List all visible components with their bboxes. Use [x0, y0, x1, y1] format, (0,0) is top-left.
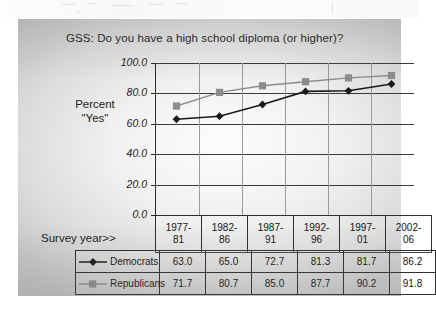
category-header-line: 96 [295, 234, 338, 246]
legend-marker-square-icon [78, 278, 108, 290]
data-point-democrats-1997-01 [345, 87, 353, 95]
category-header-line: 1997- [341, 222, 384, 234]
data-point-democrats-1987-91 [259, 101, 267, 109]
category-header-line: 2002- [387, 222, 430, 234]
legend-entry-republicans: Republicans [76, 273, 160, 295]
y-tick-label: 80.0 [91, 86, 147, 98]
data-cell-democrats-1997-01: 81.7 [344, 251, 390, 273]
category-header-line: 91 [249, 234, 292, 246]
category-header-cell: 1977-81 [156, 216, 202, 253]
y-tick-label: 60.0 [91, 117, 147, 129]
data-table: Democrats63.065.072.781.381.786.2Republi… [75, 250, 436, 295]
data-cell-republicans-1997-01: 90.2 [344, 273, 390, 295]
scan-noise-strip [0, 0, 419, 18]
table-row: Republicans71.780.785.087.790.291.8 [76, 273, 436, 295]
category-header-line: 1992- [295, 222, 338, 234]
y-tick-label: 0.0 [91, 208, 147, 220]
series-line-democrats [177, 84, 392, 119]
y-tick-label: 20.0 [91, 178, 147, 190]
legend-entry-democrats: Democrats [76, 251, 160, 273]
data-cell-democrats-1977-81: 63.0 [160, 251, 206, 273]
category-header-line: 1987- [249, 222, 292, 234]
category-header-cell: 1987-91 [248, 216, 294, 253]
data-point-democrats-2002-06 [388, 80, 396, 88]
slide-panel: GSS: Do you have a high school diploma (… [18, 19, 401, 296]
data-cell-democrats-2002-06: 86.2 [390, 251, 436, 273]
scan-mark [332, 2, 333, 13]
data-cell-republicans-1992-96: 87.7 [298, 273, 344, 295]
y-tick-label: 40.0 [91, 147, 147, 159]
legend-label: Democrats [110, 256, 158, 267]
series-layer [155, 63, 413, 215]
y-tick-label: 100.0 [91, 56, 147, 68]
data-point-republicans-1997-01 [345, 74, 352, 81]
category-header-line: 1982- [203, 222, 246, 234]
data-point-republicans-1987-91 [259, 82, 266, 89]
category-header-row: 1977-811982-861987-911992-961997-012002-… [156, 216, 432, 253]
data-cell-democrats-1987-91: 72.7 [252, 251, 298, 273]
x-axis-title: Survey year>> [41, 232, 116, 244]
data-point-democrats-1977-81 [173, 115, 181, 123]
legend-marker-diamond-icon [78, 256, 108, 268]
data-point-republicans-1992-96 [302, 78, 309, 85]
category-header-cell: 1982-86 [202, 216, 248, 253]
data-point-republicans-2002-06 [388, 72, 395, 79]
data-cell-republicans-1987-91: 85.0 [252, 273, 298, 295]
category-header-line: 86 [203, 234, 246, 246]
category-header-table: 1977-811982-861987-911992-961997-012002-… [155, 215, 432, 253]
data-point-republicans-1982-86 [216, 89, 223, 96]
category-header-cell: 2002-06 [386, 216, 432, 253]
data-point-republicans-1977-81 [173, 102, 180, 109]
data-point-democrats-1992-96 [302, 88, 310, 96]
category-header-line: 01 [341, 234, 384, 246]
data-cell-republicans-1977-81: 71.7 [160, 273, 206, 295]
legend-label: Republicans [110, 278, 165, 289]
data-point-democrats-1982-86 [216, 112, 224, 120]
chart-title: GSS: Do you have a high school diploma (… [66, 32, 343, 44]
data-cell-republicans-1982-86: 80.7 [206, 273, 252, 295]
data-cell-republicans-2002-06: 91.8 [390, 273, 436, 295]
category-header-cell: 1992-96 [294, 216, 340, 253]
category-header-line: 1977- [157, 222, 200, 234]
category-header-line: 81 [157, 234, 200, 246]
y-axis-title-line1: Percent [55, 98, 135, 112]
category-header-line: 06 [387, 234, 430, 246]
data-cell-democrats-1992-96: 81.3 [298, 251, 344, 273]
series-line-republicans [177, 75, 392, 106]
data-cell-democrats-1982-86: 65.0 [206, 251, 252, 273]
table-row: Democrats63.065.072.781.381.786.2 [76, 251, 436, 273]
category-header-cell: 1997-01 [340, 216, 386, 253]
